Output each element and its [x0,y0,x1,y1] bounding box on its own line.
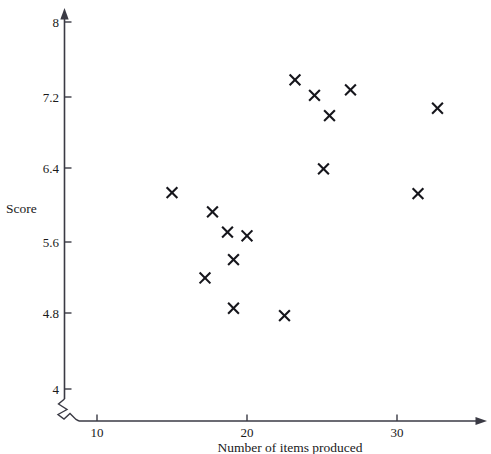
chart-canvas: 8 7.2 6.4 5.6 4.8 4 10 20 30 Score Numbe… [0,0,491,454]
x-tick-marks [97,415,397,422]
x-axis [79,417,487,425]
x-axis-title: Number of items produced [217,440,362,454]
x-tick-labels: 10 20 30 [91,425,404,440]
data-point-marker [242,230,253,241]
x-tick-label-30: 30 [391,425,404,440]
data-point-marker [222,227,233,238]
x-axis-arrowhead [476,417,488,425]
data-point-marker [432,103,443,114]
x-tick-label-10: 10 [91,425,104,440]
y-tick-label-5-6: 5.6 [43,235,60,250]
data-point-marker [228,254,239,265]
data-point-marker [324,110,335,121]
y-axis-title: Score [6,201,37,216]
data-point-layer [167,74,443,321]
y-tick-marks [65,22,72,389]
y-axis [60,8,68,399]
y-tick-label-7-2: 7.2 [43,90,59,105]
axis-break-zigzag [58,399,79,421]
y-tick-label-4: 4 [53,382,60,397]
y-tick-labels: 8 7.2 6.4 5.6 4.8 4 [43,15,60,397]
y-tick-label-4-8: 4.8 [43,306,59,321]
data-point-marker [309,90,320,101]
y-tick-label-8: 8 [53,15,60,30]
y-axis-arrowhead [60,8,68,20]
scatter-plot-figure: 8 7.2 6.4 5.6 4.8 4 10 20 30 Score Numbe… [0,0,491,454]
data-point-marker [207,207,218,218]
y-tick-label-6-4: 6.4 [43,161,60,176]
data-point-marker [290,74,301,85]
data-point-marker [167,187,178,198]
data-point-marker [279,310,290,321]
data-point-marker [413,188,424,199]
data-point-marker [228,303,239,314]
data-point-marker [345,85,356,96]
data-point-marker [200,273,211,284]
x-tick-label-20: 20 [241,425,254,440]
data-point-marker [318,163,329,174]
